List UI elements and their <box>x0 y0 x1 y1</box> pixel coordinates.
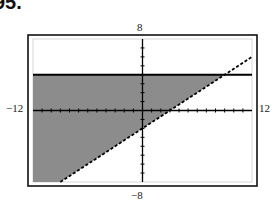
plot-area <box>0 0 274 209</box>
shaded-region <box>33 75 225 182</box>
